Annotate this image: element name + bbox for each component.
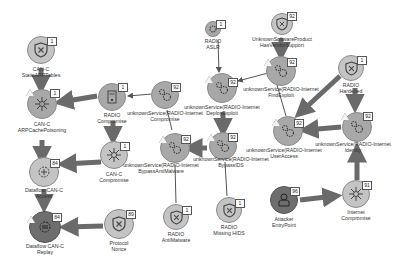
shield-x-icon <box>223 203 236 218</box>
node-label: CAN-CStaticARPTables <box>22 66 61 78</box>
edge-radio-compromise-to-arp-poison <box>61 96 97 102</box>
score-badge: 92 <box>363 112 373 121</box>
edge-nonce-to-replay <box>66 226 103 227</box>
label-line-2: HasVendorSupport <box>260 42 304 48</box>
label-line-2: DeployExploit <box>206 110 238 116</box>
node-label: CAN-CARPCachePoisoning <box>18 121 66 133</box>
dataflow-icon <box>37 165 51 179</box>
node-label: unknownService(RADIO-InternetUserAccess <box>246 147 322 159</box>
score-badge: 1 <box>50 89 60 98</box>
node-label: unknownService(RADIO-InternetIdentity <box>315 141 391 153</box>
score-badge: 92 <box>294 119 304 128</box>
label-line-2: BypassAntiMalware <box>138 168 184 174</box>
label-line-2: Access <box>36 193 53 199</box>
score-badge: 92 <box>171 83 181 92</box>
dataflow-icon <box>38 220 52 234</box>
warning-icon <box>264 59 272 66</box>
shield-x-icon <box>345 61 358 76</box>
node-label: unknownService(RADIO-InternetDeployExplo… <box>184 104 260 116</box>
label-line-2: BypassIDS <box>218 162 244 168</box>
warning-icon <box>27 216 35 223</box>
label-line-2: Hardened <box>340 88 363 94</box>
label-line-2: Compromise <box>341 215 370 221</box>
label-line-2: ASLR <box>206 44 220 50</box>
node-label: Dataflow CAN-CReplay <box>26 243 64 255</box>
edge-unk-compromise-to-radio-compromise <box>128 94 152 96</box>
edge-can-compromise-to-dataflow-access <box>64 162 101 164</box>
label-line-2: ARPCachePoisoning <box>18 127 66 133</box>
node-label: unknownService(RADIO-InternetFindExploit <box>243 86 319 98</box>
label-line-2: EntryPoint <box>272 222 296 228</box>
warning-icon <box>159 136 167 143</box>
score-badge: 84 <box>52 213 62 222</box>
node-label: RADIOHardened <box>340 82 363 94</box>
score-badge: 89 <box>126 210 136 219</box>
label-line-2: Compromise <box>99 177 128 183</box>
node-label: ProtocolNonce <box>109 240 128 252</box>
node-label: RADIOASLR <box>205 38 221 50</box>
score-badge: 91 <box>362 181 372 190</box>
node-label: RADIOAntiMalware <box>162 231 191 243</box>
node-label: RADIOMissing HIDS <box>213 224 244 236</box>
score-badge: 1 <box>118 83 128 92</box>
score-badge: 1 <box>182 206 192 215</box>
score-badge: 84 <box>50 159 60 168</box>
edge-identity-to-user-access <box>306 127 341 130</box>
edge-find-to-deploy <box>238 73 268 81</box>
label-line-2: Compromise <box>97 118 126 124</box>
label-line-2: Identity <box>345 147 362 153</box>
attack-graph-canvas: 1 CAN-CStaticARPTables 1 CAN-CARPCachePo… <box>0 0 413 267</box>
score-badge: 1 <box>47 37 57 46</box>
node-label: InternetCompromise <box>341 209 370 221</box>
node-label: UnknownSoftwareProductHasVendorSupport <box>252 36 312 48</box>
label-line-2: Compromise <box>150 116 179 122</box>
warning-icon <box>207 134 215 141</box>
device-icon <box>107 90 117 104</box>
score-badge: 1 <box>235 199 245 208</box>
score-badge: 92 <box>228 78 238 87</box>
node-label: RADIOCompromise <box>97 112 126 124</box>
gears-icon <box>349 119 365 135</box>
label-line-2: FindExploit <box>268 92 294 98</box>
shield-x-icon <box>112 216 126 232</box>
node-label: unknownService(RADIO-InternetBypassAntiM… <box>123 162 199 174</box>
shield-x-icon <box>170 210 183 225</box>
shield-x-icon <box>34 42 48 58</box>
score-badge: 96 <box>290 187 300 196</box>
node-label: Dataflow CAN-CAccess <box>25 187 63 199</box>
edge-attacker-to-internet <box>300 196 335 200</box>
label-line-2: Missing HIDS <box>213 230 244 236</box>
warning-icon <box>26 89 34 96</box>
label-line-2: StaticARPTables <box>22 72 61 78</box>
score-badge: 1 <box>120 142 130 151</box>
label-line-2: AntiMalware <box>162 237 191 243</box>
label-line-2: UserAccess <box>270 153 298 159</box>
label-line-2: Nonce <box>112 246 127 252</box>
warning-icon <box>205 76 213 83</box>
score-badge: 92 <box>287 58 297 67</box>
score-badge: 92 <box>181 135 191 144</box>
score-badge: 1 <box>357 56 367 65</box>
score-badge: 92 <box>287 12 297 21</box>
node-label: AttackerEntryPoint <box>272 216 296 228</box>
score-badge: 1 <box>216 20 226 29</box>
score-badge: 92 <box>228 133 238 142</box>
network-hub-icon <box>34 96 50 112</box>
attacker-icon <box>278 193 290 207</box>
label-line-2: Replay <box>37 249 53 255</box>
warning-icon <box>341 113 349 120</box>
warning-icon <box>272 119 280 126</box>
